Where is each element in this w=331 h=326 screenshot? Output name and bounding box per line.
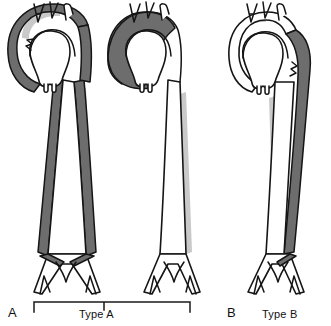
diagram-1-aortic-root <box>30 31 70 86</box>
caption-type-b: Type B <box>262 308 297 320</box>
diagram-3-aortic-bifurcation <box>248 254 304 294</box>
diagram-aorta-dissection-ascending-only <box>108 2 200 294</box>
panel-letter-a: A <box>8 305 17 320</box>
panel-letter-b: B <box>227 305 236 320</box>
aorta-diagram-svg <box>0 0 331 326</box>
diagram-2-coronary-ostium-left <box>140 84 144 92</box>
aortic-dissection-figure: A Type A B Type B <box>0 0 331 326</box>
diagram-1-coronary-ostium-right <box>52 84 56 92</box>
diagram-3-coronary-ostium-left <box>257 86 261 94</box>
diagram-1-coronary-ostium-left <box>44 84 48 92</box>
caption-type-a: Type A <box>79 308 114 320</box>
diagram-1-aortic-bifurcation <box>34 254 100 294</box>
diagram-aorta-dissection-extensive <box>8 2 100 294</box>
diagram-3-entry-tear-detail <box>290 62 297 76</box>
diagram-aorta-dissection-descending-only <box>229 2 311 294</box>
diagram-2-coronary-ostium-right <box>148 84 152 92</box>
diagram-3-coronary-ostium-right <box>265 86 269 94</box>
diagram-1-ascending-false-lumen <box>78 25 91 82</box>
diagram-2-aortic-bifurcation <box>144 254 200 294</box>
